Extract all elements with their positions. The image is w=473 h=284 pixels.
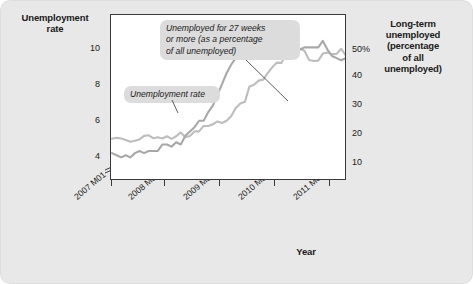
x-tickmark-1 [111,180,112,186]
long-term-callout: Unemployed for 27 weeks or more (as a pe… [160,20,300,60]
figure-card: Unemployment rate Long-term unemployed (… [0,0,473,284]
unemployment-rate-callout: Unemployment rate [124,86,220,103]
y-left-tick-label-4: 4 [78,151,100,161]
x-tick-label-1: 2007 M01 [72,169,108,201]
long-term-callout-line3: of all unemployed) [166,46,294,57]
x-axis-title: Year [276,246,336,257]
y-left-tick-label-6: 6 [78,115,100,125]
y-axis-right-title-line2: unemployed [360,29,466,40]
y-right-tick-label-40: 40 [352,70,378,80]
y-right-tick-label-10: 10 [352,157,378,167]
long-term-callout-line1: Unemployed for 27 weeks [166,23,294,34]
y-axis-right-title-line1: Long-term [360,18,466,29]
y-right-tick-label-50: 50% [352,44,378,54]
x-tickmark-3 [219,180,220,186]
y-right-tick-label-20: 20 [352,128,378,138]
y-axis-left-title-line1: Unemployment [6,12,104,23]
y-right-tick-label-30: 30 [352,99,378,109]
x-tickmark-2 [164,180,165,186]
y-axis-left-title-line2: rate [6,23,104,34]
y-left-tick-label-10: 10 [78,43,100,53]
y-left-tick-label-8: 8 [78,79,100,89]
long-term-callout-line2: or more (as a percentage [166,34,294,45]
y-axis-left-title: Unemployment rate [6,12,104,34]
x-tickmark-4 [274,180,275,186]
x-tickmark-5 [329,180,330,186]
